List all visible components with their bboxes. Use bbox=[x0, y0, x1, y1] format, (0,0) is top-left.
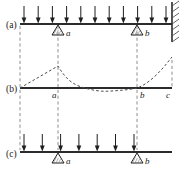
row-b-label-a: a bbox=[52, 90, 57, 100]
row-c-support-b bbox=[131, 153, 143, 163]
row-c-label-b: b bbox=[145, 156, 150, 166]
load-arrow bbox=[58, 134, 63, 151]
load-arrow bbox=[113, 134, 118, 151]
row-b: (b) a b c bbox=[6, 57, 172, 100]
beam-influence-line-figure: (a) bbox=[0, 0, 185, 170]
influence-line-curve bbox=[20, 57, 172, 91]
row-a-label-b: b bbox=[145, 28, 150, 38]
load-arrow bbox=[77, 134, 82, 151]
load-arrow bbox=[164, 6, 169, 23]
load-arrow bbox=[64, 6, 69, 23]
load-arrow bbox=[93, 6, 98, 23]
load-arrow bbox=[135, 6, 140, 23]
row-a-fixed-wall bbox=[172, 1, 179, 42]
load-arrow bbox=[50, 6, 55, 23]
row-a-label-a: a bbox=[66, 28, 71, 38]
row-b-caption: (b) bbox=[6, 84, 17, 95]
load-arrow bbox=[22, 134, 27, 151]
load-arrow bbox=[22, 6, 27, 23]
load-arrow bbox=[107, 6, 112, 23]
row-b-label-c: c bbox=[166, 90, 170, 100]
load-arrow bbox=[132, 134, 137, 151]
row-a-distributed-load bbox=[22, 6, 169, 23]
row-b-label-b: b bbox=[140, 90, 145, 100]
load-arrow bbox=[78, 6, 83, 23]
row-c-distributed-load bbox=[22, 134, 137, 151]
load-arrow bbox=[121, 6, 126, 23]
load-arrow bbox=[149, 6, 154, 23]
load-arrow bbox=[95, 134, 100, 151]
row-a-caption: (a) bbox=[6, 20, 17, 31]
load-arrow bbox=[40, 134, 45, 151]
row-c-caption: (c) bbox=[6, 149, 17, 160]
load-arrow bbox=[36, 6, 41, 23]
row-a: (a) bbox=[6, 1, 179, 42]
row-c-support-a bbox=[52, 153, 64, 163]
row-c-label-a: a bbox=[66, 156, 71, 166]
row-c: (c) bbox=[6, 134, 172, 166]
